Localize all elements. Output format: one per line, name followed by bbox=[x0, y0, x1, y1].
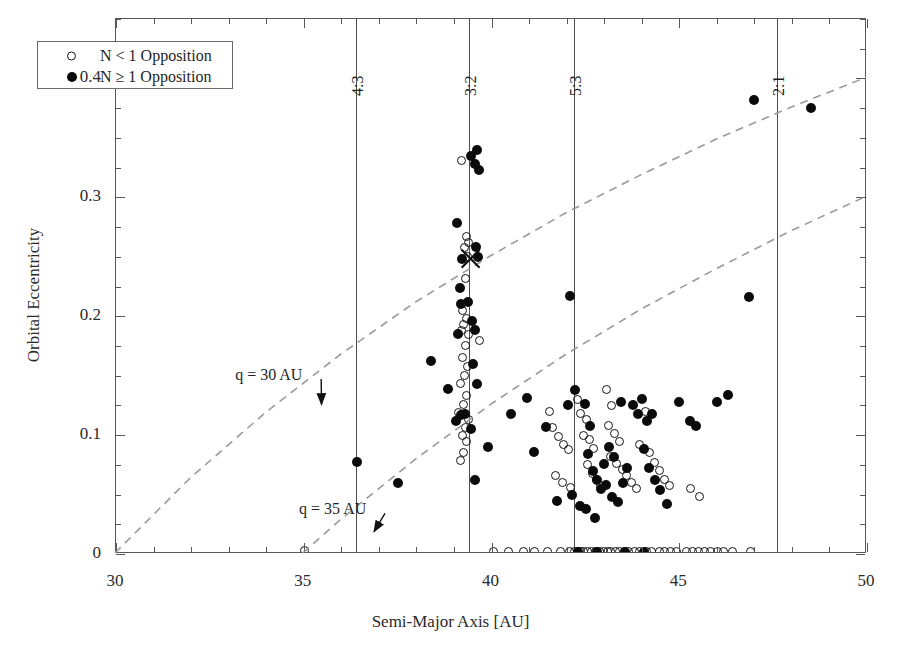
data-point-filled bbox=[471, 242, 481, 252]
data-point-open bbox=[695, 492, 704, 501]
x-tick-minor-top bbox=[341, 19, 342, 24]
plot-area bbox=[115, 18, 866, 553]
x-tick-minor bbox=[416, 547, 417, 552]
data-point-open bbox=[461, 274, 470, 283]
data-point-filled bbox=[352, 457, 362, 467]
data-point-filled bbox=[616, 397, 626, 407]
x-tick-minor bbox=[154, 547, 155, 552]
x-tick-major-top bbox=[304, 19, 305, 28]
x-tick-minor-top bbox=[754, 19, 755, 24]
y-tick-minor-right bbox=[860, 465, 865, 466]
data-point-filled bbox=[609, 452, 619, 462]
y-tick-minor-right bbox=[860, 19, 865, 20]
x-tick-minor-top bbox=[529, 19, 530, 24]
data-point-filled bbox=[618, 478, 628, 488]
data-point-filled bbox=[468, 359, 478, 369]
y-tick-major-right bbox=[856, 435, 865, 436]
y-tick-minor bbox=[116, 495, 121, 496]
data-point-filled bbox=[563, 400, 573, 410]
resonance-line-3-2 bbox=[469, 19, 470, 552]
y-tick-minor bbox=[116, 138, 121, 139]
data-point-filled bbox=[585, 421, 595, 431]
data-point-filled bbox=[567, 490, 577, 500]
data-point-filled bbox=[806, 103, 816, 113]
data-point-open bbox=[456, 456, 465, 465]
data-point-filled bbox=[552, 496, 562, 506]
y-tick-minor-right bbox=[860, 227, 865, 228]
legend-row: N < 1 Opposition bbox=[38, 45, 232, 66]
data-point-open bbox=[545, 407, 554, 416]
y-tick-minor-right bbox=[860, 138, 865, 139]
data-point-filled bbox=[470, 325, 480, 335]
data-point-open bbox=[686, 484, 695, 493]
data-point-filled bbox=[541, 422, 551, 432]
resonance-label-2-1: 2:1 bbox=[770, 76, 788, 96]
data-point-filled bbox=[506, 409, 516, 419]
data-point-filled bbox=[601, 480, 611, 490]
x-tick-minor-top bbox=[717, 19, 718, 24]
x-tick-label: 45 bbox=[670, 571, 687, 591]
y-tick-minor bbox=[116, 227, 121, 228]
x-tick-minor bbox=[829, 547, 830, 552]
data-point-open bbox=[458, 353, 467, 362]
x-tick-major bbox=[679, 543, 680, 552]
data-point-filled bbox=[662, 499, 672, 509]
data-point-filled bbox=[581, 504, 591, 514]
y-tick-minor-right bbox=[860, 168, 865, 169]
annotation-label-1: q = 35 AU bbox=[299, 500, 366, 518]
x-tick-major bbox=[867, 543, 868, 552]
data-point-open bbox=[456, 379, 465, 388]
x-tick-major-top bbox=[492, 19, 493, 28]
data-point-open bbox=[719, 547, 728, 552]
data-point-open bbox=[728, 547, 737, 552]
resonance-label-3-2: 3:2 bbox=[462, 76, 480, 96]
y-tick-minor-right bbox=[860, 524, 865, 525]
y-tick-minor bbox=[116, 108, 121, 109]
data-point-filled bbox=[443, 384, 453, 394]
data-point-open bbox=[632, 484, 641, 493]
data-point-filled bbox=[749, 95, 759, 105]
data-point-open bbox=[602, 385, 611, 394]
data-point-filled bbox=[466, 151, 476, 161]
data-point-filled bbox=[592, 547, 602, 552]
y-tick-major-right bbox=[856, 78, 865, 79]
data-point-open bbox=[462, 437, 471, 446]
data-point-filled bbox=[453, 329, 463, 339]
y-tick-label: 0.4 bbox=[49, 67, 101, 87]
x-tick-minor bbox=[229, 547, 230, 552]
y-tick-minor-right bbox=[860, 405, 865, 406]
x-tick-major bbox=[116, 543, 117, 552]
data-point-open bbox=[665, 481, 674, 490]
x-tick-minor bbox=[567, 547, 568, 552]
resonance-label-5-3: 5:3 bbox=[567, 76, 585, 96]
data-point-filled bbox=[639, 444, 649, 454]
data-point-filled bbox=[522, 393, 532, 403]
y-tick-label: 0.2 bbox=[49, 305, 101, 325]
x-tick-label: 50 bbox=[858, 571, 875, 591]
data-point-filled bbox=[723, 390, 733, 400]
x-tick-label: 35 bbox=[294, 571, 311, 591]
y-tick-major-right bbox=[856, 554, 865, 555]
data-point-filled bbox=[470, 475, 480, 485]
data-point-open bbox=[530, 547, 539, 552]
x-tick-minor bbox=[604, 547, 605, 552]
y-tick-minor bbox=[116, 376, 121, 377]
y-tick-minor bbox=[116, 19, 121, 20]
data-point-open bbox=[489, 547, 498, 552]
y-tick-major-right bbox=[856, 197, 865, 198]
y-tick-major bbox=[116, 316, 125, 317]
x-tick-minor-top bbox=[792, 19, 793, 24]
data-point-filled bbox=[452, 218, 462, 228]
x-tick-minor bbox=[266, 547, 267, 552]
x-tick-label: 30 bbox=[107, 571, 124, 591]
y-tick-minor bbox=[116, 257, 121, 258]
data-point-filled bbox=[650, 475, 660, 485]
y-tick-minor-right bbox=[860, 376, 865, 377]
data-point-open bbox=[475, 336, 484, 345]
data-point-filled bbox=[744, 292, 754, 302]
y-tick-major bbox=[116, 197, 125, 198]
data-point-filled bbox=[583, 449, 593, 459]
x-tick-minor-top bbox=[604, 19, 605, 24]
y-tick-label: 0 bbox=[49, 543, 101, 563]
x-tick-minor bbox=[792, 547, 793, 552]
